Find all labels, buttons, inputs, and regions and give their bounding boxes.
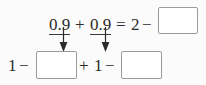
top-minus-operator: − xyxy=(142,16,152,33)
bottom-minus-operator-1: − xyxy=(19,57,29,74)
math-worksheet: 0.9 + 0.9 = 2 − 1 − + 1 − xyxy=(0,0,206,85)
arrow-down-icon-1 xyxy=(57,27,70,53)
answer-box-top-1[interactable] xyxy=(158,7,198,34)
answer-box-bottom-1[interactable] xyxy=(36,51,77,79)
answer-box-bottom-2[interactable] xyxy=(121,51,162,79)
bottom-term-1: 1 xyxy=(8,57,17,74)
top-plus-operator: + xyxy=(75,16,85,33)
top-term-3: 2 xyxy=(131,16,140,33)
bottom-plus-operator: + xyxy=(79,57,89,74)
bottom-minus-operator-2: − xyxy=(105,57,115,74)
top-equals-operator: = xyxy=(116,16,126,33)
arrow-down-icon-2 xyxy=(99,27,112,53)
bottom-term-2: 1 xyxy=(94,57,103,74)
